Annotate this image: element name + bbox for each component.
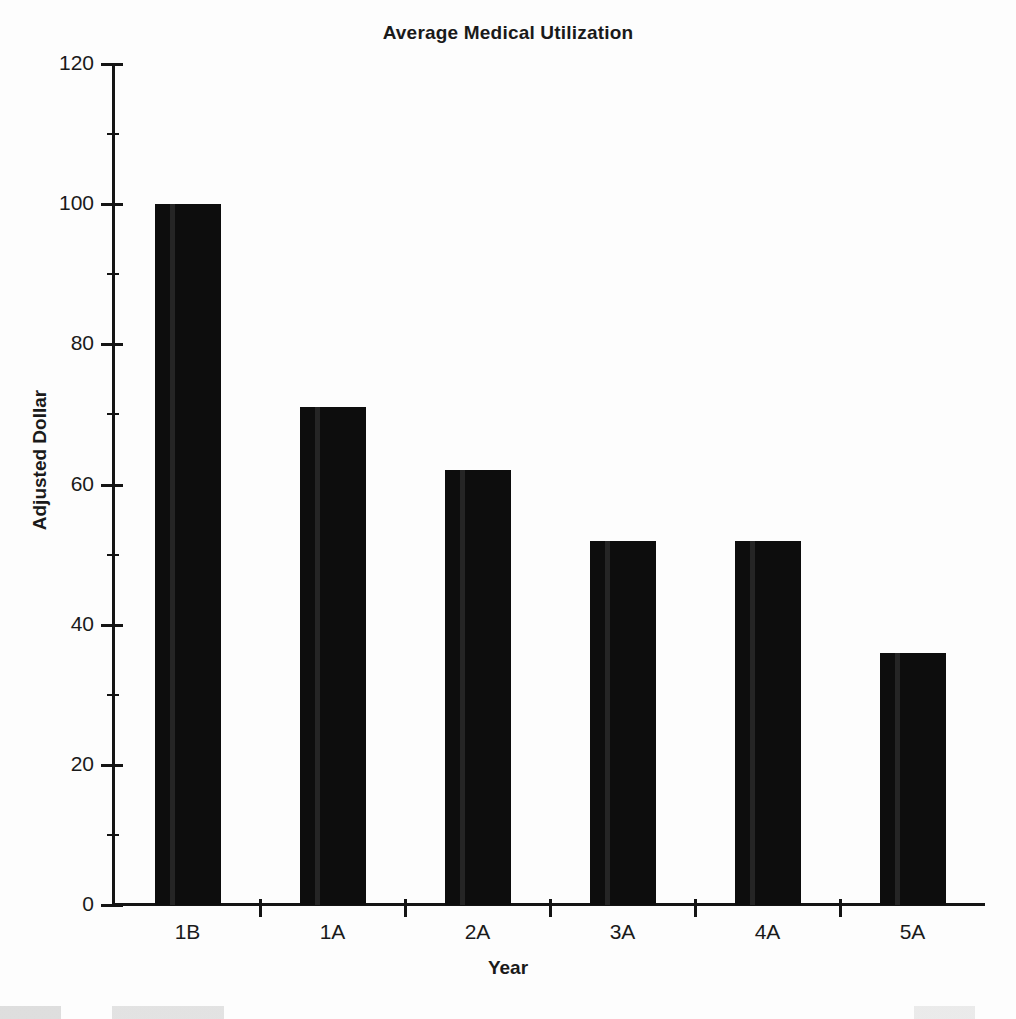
y-axis-tick — [101, 764, 123, 767]
y-axis-title: Adjusted Dollar — [29, 360, 51, 560]
x-axis-tick-label: 1A — [273, 920, 393, 944]
chart-figure: Average Medical Utilization 020406080100… — [0, 0, 1016, 1019]
y-axis-tick — [101, 343, 123, 346]
x-axis-tick-label: 2A — [418, 920, 538, 944]
x-axis-tick — [694, 899, 697, 917]
y-axis-minor-tick — [107, 834, 119, 836]
x-axis-tick-label: 3A — [563, 920, 683, 944]
y-axis-tick-label: 80 — [36, 331, 94, 355]
y-axis-tick-label: 0 — [36, 892, 94, 916]
y-axis-minor-tick — [107, 413, 119, 415]
x-axis-title: Year — [0, 957, 1016, 979]
x-axis-tick — [839, 899, 842, 917]
scan-artifact — [0, 1006, 1016, 1019]
y-axis-minor-tick — [107, 694, 119, 696]
x-axis-tick — [549, 899, 552, 917]
y-axis-tick — [101, 484, 123, 487]
plot-area: 020406080100120 1B1A2A3A4A5A — [0, 0, 1016, 1019]
bar-scan-streak — [170, 204, 175, 905]
x-axis-tick-label: 5A — [853, 920, 973, 944]
bar-scan-streak — [895, 653, 900, 905]
x-axis-tick-label: 1B — [128, 920, 248, 944]
x-axis-tick — [259, 899, 262, 917]
bar-scan-streak — [315, 407, 320, 905]
y-axis-tick-label: 20 — [36, 752, 94, 776]
y-axis-tick — [101, 624, 123, 627]
y-axis-minor-tick — [107, 133, 119, 135]
bar-scan-streak — [460, 470, 465, 905]
bar-scan-streak — [750, 541, 755, 905]
y-axis-tick-label: 120 — [36, 51, 94, 75]
bar — [155, 204, 221, 905]
bar — [735, 541, 801, 905]
bar — [300, 407, 366, 905]
bar — [880, 653, 946, 905]
bar — [445, 470, 511, 905]
y-axis-tick — [101, 203, 123, 206]
y-axis-tick — [101, 904, 123, 907]
bar-scan-streak — [605, 541, 610, 905]
x-axis-tick-label: 4A — [708, 920, 828, 944]
bar — [590, 541, 656, 905]
y-axis-minor-tick — [107, 273, 119, 275]
y-axis-minor-tick — [107, 554, 119, 556]
y-axis-tick-label: 40 — [36, 612, 94, 636]
x-axis-tick — [404, 899, 407, 917]
y-axis-tick-label: 100 — [36, 191, 94, 215]
y-axis-tick — [101, 63, 123, 66]
